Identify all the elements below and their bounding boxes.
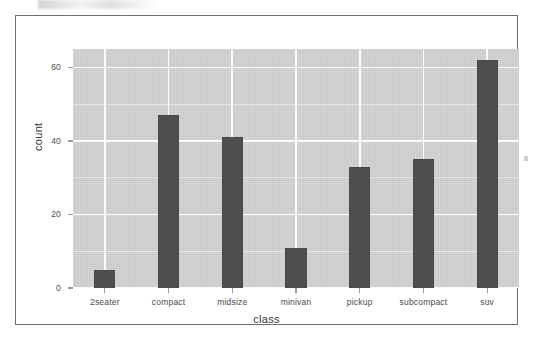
y-axis-tick-mark bbox=[68, 287, 73, 288]
x-axis-tick-mark bbox=[295, 288, 296, 293]
scan-speck-artifact bbox=[524, 156, 528, 161]
x-axis-tick-label-subcompact: subcompact bbox=[400, 297, 448, 307]
gridline-major-vertical bbox=[104, 49, 106, 288]
x-axis-tick-mark bbox=[104, 288, 105, 293]
x-axis-tick-mark bbox=[423, 288, 424, 293]
scan-smudge-artifact bbox=[38, 0, 158, 9]
x-axis-tick-label-minivan: minivan bbox=[281, 297, 312, 307]
y-axis-title: count bbox=[32, 123, 44, 151]
y-axis-tick-label: 60 bbox=[37, 62, 61, 72]
plot-panel bbox=[73, 49, 519, 288]
x-axis-tick-label-pickup: pickup bbox=[347, 297, 373, 307]
y-axis-tick-mark bbox=[68, 214, 73, 215]
y-axis-tick-label: 0 bbox=[37, 283, 61, 293]
y-axis-tick-mark bbox=[68, 140, 73, 141]
bar-2seater bbox=[94, 270, 115, 288]
bar-subcompact bbox=[413, 159, 434, 288]
bar-minivan bbox=[285, 248, 306, 288]
y-axis-tick-mark bbox=[68, 67, 73, 68]
chart-figure-frame: 0204060 2seatercompactmidsizeminivanpick… bbox=[15, 15, 518, 325]
x-axis-tick-label-compact: compact bbox=[152, 297, 186, 307]
bar-pickup bbox=[349, 167, 370, 288]
x-axis-tick-mark bbox=[359, 288, 360, 293]
x-axis-tick-mark bbox=[487, 288, 488, 293]
x-axis-tick-mark bbox=[168, 288, 169, 293]
x-axis-tick-label-midsize: midsize bbox=[217, 297, 247, 307]
bar-compact bbox=[158, 115, 179, 288]
x-axis-tick-label-2seater: 2seater bbox=[90, 297, 120, 307]
y-axis-tick-label: 20 bbox=[37, 209, 61, 219]
x-axis-tick-mark bbox=[232, 288, 233, 293]
bar-suv bbox=[477, 60, 498, 288]
x-axis-title: class bbox=[16, 313, 517, 325]
x-axis-tick-label-suv: suv bbox=[480, 297, 494, 307]
bar-midsize bbox=[222, 137, 243, 288]
